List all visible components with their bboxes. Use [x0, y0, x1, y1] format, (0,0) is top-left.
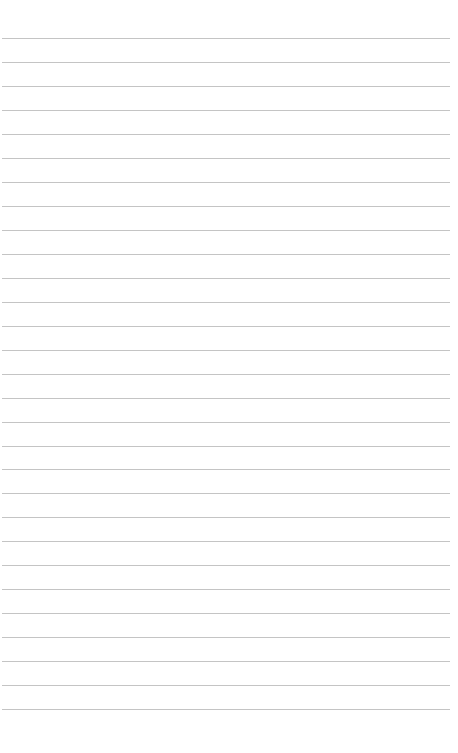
ruled-line: [2, 613, 450, 614]
ruled-line: [2, 230, 450, 231]
ruled-line: [2, 278, 450, 279]
ruled-line: [2, 589, 450, 590]
ruled-line: [2, 254, 450, 255]
ruled-line: [2, 446, 450, 447]
ruled-line: [2, 158, 450, 159]
ruled-line: [2, 422, 450, 423]
ruled-page: [0, 0, 458, 753]
ruled-line: [2, 469, 450, 470]
ruled-line: [2, 326, 450, 327]
ruled-line: [2, 206, 450, 207]
ruled-line: [2, 565, 450, 566]
ruled-line: [2, 302, 450, 303]
ruled-line: [2, 374, 450, 375]
ruled-line: [2, 709, 450, 710]
ruled-line: [2, 637, 450, 638]
ruled-line: [2, 493, 450, 494]
ruled-line: [2, 182, 450, 183]
ruled-line: [2, 685, 450, 686]
ruled-line: [2, 398, 450, 399]
ruled-line: [2, 86, 450, 87]
ruled-line: [2, 517, 450, 518]
ruled-line: [2, 62, 450, 63]
ruled-line: [2, 38, 450, 39]
ruled-line: [2, 350, 450, 351]
ruled-line: [2, 134, 450, 135]
ruled-line: [2, 110, 450, 111]
ruled-line: [2, 661, 450, 662]
ruled-line: [2, 541, 450, 542]
